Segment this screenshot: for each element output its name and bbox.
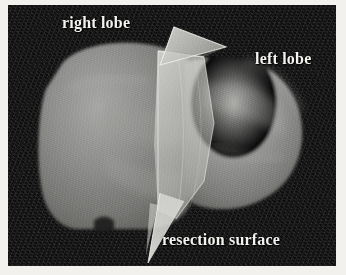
annotation-right-lobe: right lobe xyxy=(62,15,130,31)
resection-plane-spike xyxy=(146,193,184,263)
figure-root: right lobe left lobe resection surface xyxy=(0,0,346,275)
annotation-left-lobe: left lobe xyxy=(255,51,311,67)
annotation-resection-surface: resection surface xyxy=(162,232,280,248)
liver-3d-scene xyxy=(8,5,336,266)
render-canvas: right lobe left lobe resection surface xyxy=(8,5,336,266)
